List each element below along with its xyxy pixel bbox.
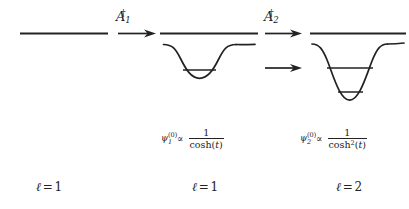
panel-3-potential-well-curve-right-wing (388, 43, 405, 44)
panel-2-fraction: 1 cosh(t) (189, 128, 224, 150)
panel-2-wavefunction-label: ψ(0)1 ∝ 1 cosh(t) (161, 128, 224, 150)
panel-1-ell-value: 1 (54, 180, 62, 194)
operator-2-arrow-group (265, 29, 302, 72)
panel-3-ell-symbol: ℓ (336, 180, 341, 194)
panel-2-fraction-denominator: cosh(t) (189, 139, 224, 149)
panel-3-fraction-numerator: 1 (341, 128, 353, 138)
operator-1-subscript: 1 (125, 15, 130, 25)
operator-2-subscript: 2 (273, 15, 278, 25)
panel-2-ell-label: ℓ=1 (192, 181, 218, 193)
operator-1-label: A†1 (116, 8, 131, 25)
panel-3-cosh-exponent: 2 (351, 139, 355, 147)
operator-1-arrow-group (118, 29, 156, 37)
panel-3-ell-label: ℓ=2 (336, 181, 362, 193)
panel-2-ell-symbol: ℓ (192, 180, 197, 194)
panel-2-ell-equals: = (199, 180, 209, 194)
panel-2-psi-glyph: ψ (161, 133, 168, 143)
panel-3-ell-equals: = (343, 180, 353, 194)
operator-2-label: A†2 (264, 8, 279, 25)
panel-1-ell-equals: = (43, 180, 53, 194)
panel-3-graphic (310, 34, 406, 101)
figure-canvas (0, 0, 409, 209)
panel-3-psi-glyph: ψ (300, 133, 307, 143)
panel-2-graphic (160, 34, 258, 79)
panel-2-fraction-numerator: 1 (200, 128, 212, 138)
panel-2-potential-well-curve (164, 45, 237, 79)
panel-3-psi-symbol: ψ(0)2 (300, 134, 307, 143)
panel-3-proportional-icon: ∝ (316, 134, 322, 144)
panel-2-cosh-function: cosh (190, 139, 212, 150)
panel-2-psi-subscript: 1 (168, 139, 172, 146)
panel-3-psi-subscript: 2 (307, 139, 311, 146)
panel-3-ell-value: 2 (354, 180, 362, 194)
panel-2-variable-t: t (215, 139, 219, 150)
panel-3-cosh-function: cosh (329, 139, 351, 150)
panel-3-variable-t: t (358, 139, 362, 150)
panel-2-psi-symbol: ψ(0)1 (161, 134, 168, 143)
panel-2-ell-value: 1 (210, 180, 218, 194)
panel-3-fraction-denominator: cosh2(t) (328, 139, 367, 149)
panel-3-fraction: 1 cosh2(t) (328, 128, 367, 150)
panel-1-ell-label: ℓ=1 (36, 181, 62, 193)
panel-2-proportional-icon: ∝ (177, 134, 183, 144)
panel-1-ell-symbol: ℓ (36, 180, 41, 194)
susy-potential-ladder-figure: A†1 A†2 ψ(0)1 ∝ 1 cosh(t) ψ(0)2 ∝ 1 cosh… (0, 0, 409, 209)
panel-3-wavefunction-label: ψ(0)2 ∝ 1 cosh2(t) (300, 128, 367, 150)
